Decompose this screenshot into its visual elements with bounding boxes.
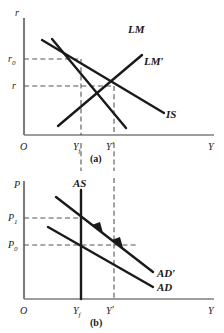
- panel-a-x-axis-label: Y: [208, 141, 215, 152]
- panel-a-ytick-r0-sub: 0: [12, 59, 16, 67]
- panel-a-ytick-r0: r0: [8, 53, 16, 67]
- panel-a: r Y O r0 r Yf Y′ LM LM′ IS (a): [8, 7, 215, 171]
- panel-a-caption: (a): [90, 153, 102, 165]
- panel-b-xtick-yf-sub: f: [79, 311, 82, 319]
- figure-canvas: r Y O r0 r Yf Y′ LM LM′ IS (a): [0, 0, 224, 333]
- panel-a-y-axis-label: r: [15, 7, 19, 18]
- panel-a-ytick-r-base: r: [12, 80, 16, 91]
- curve-label-ad-prime: AD′: [156, 267, 175, 279]
- panel-b-origin-label: O: [20, 305, 27, 316]
- curve-label-lm: LM: [127, 23, 146, 35]
- curve-label-ad: AD: [156, 281, 172, 293]
- panel-b: P Y O P1 P0 Yf Y′ AS AD′ AD (b): [7, 177, 215, 329]
- panel-b-xtick-yprime-mark: ′: [112, 304, 115, 315]
- panel-b-y-axis-label: P: [13, 179, 20, 190]
- panel-b-xtick-yprime: Y′: [106, 304, 115, 316]
- panel-b-ytick-p1-sub: 1: [14, 218, 18, 226]
- curve-ad: [48, 227, 153, 287]
- panel-a-xtick-yprime: Y′: [106, 140, 115, 152]
- curve-label-lm-prime: LM′: [143, 55, 164, 67]
- figure-root: r Y O r0 r Yf Y′ LM LM′ IS (a): [0, 0, 224, 333]
- panel-a-ytick-r: r: [12, 80, 16, 91]
- panel-b-ytick-p0: P0: [7, 239, 18, 253]
- panel-b-xtick-yf: Yf: [73, 305, 82, 319]
- panel-b-ytick-p1-base: P: [7, 212, 14, 223]
- curve-label-as: AS: [72, 177, 86, 189]
- curve-lm-prime: [58, 55, 142, 126]
- panel-a-origin-label: O: [20, 141, 27, 152]
- panel-b-caption: (b): [90, 317, 102, 329]
- curve-ad-prime: [56, 197, 153, 272]
- panel-b-ytick-p0-sub: 0: [14, 245, 18, 253]
- panel-b-x-axis-label: Y: [208, 305, 215, 316]
- panel-b-ytick-p0-base: P: [7, 239, 14, 250]
- panel-b-ytick-p1: P1: [7, 212, 18, 226]
- curve-label-is: IS: [165, 108, 176, 120]
- panel-a-xtick-yf: Yf: [73, 141, 82, 155]
